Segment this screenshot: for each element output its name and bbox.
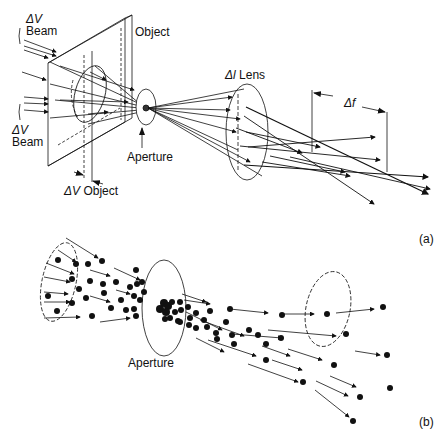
- delta-v-beam-bottom-label: Beam: [12, 136, 43, 149]
- panel-b-tag: (b): [419, 416, 434, 429]
- lens-word: Lens: [239, 68, 265, 82]
- delta-f-label: Δf: [344, 97, 355, 110]
- aperture-label-a: Aperture: [127, 151, 173, 164]
- object-plate: [48, 15, 132, 166]
- delta-l-symbol: Δl: [225, 68, 236, 82]
- object-label: Object: [135, 26, 170, 39]
- particles: [45, 257, 393, 424]
- delta-v-object-symbol: ΔV: [64, 184, 80, 198]
- aperture-label-b: Aperture: [128, 357, 174, 370]
- delta-v-beam-top-label: Beam: [26, 25, 57, 38]
- diagram-canvas: [0, 0, 448, 440]
- delta-v-object-word: Object: [83, 184, 118, 198]
- delta-l-lens-label: Δl Lens: [225, 69, 265, 82]
- panel-a: [19, 15, 430, 204]
- panel-a-tag: (a): [419, 233, 434, 246]
- delta-v-object-label: ΔV Object: [64, 185, 118, 198]
